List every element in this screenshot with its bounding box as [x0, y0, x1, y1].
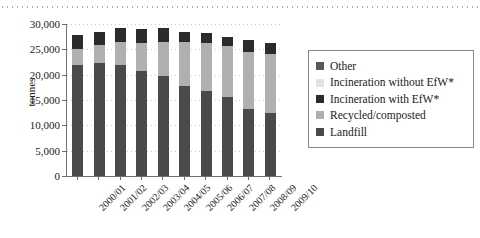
legend-label: Recycled/composted	[330, 108, 426, 122]
stacked-bar[interactable]	[136, 29, 147, 176]
bar-segment[interactable]	[115, 42, 126, 64]
legend-label: Incineration without EfW*	[330, 75, 454, 89]
bar-segment[interactable]	[265, 54, 276, 112]
legend-swatch-icon	[316, 111, 324, 119]
stacked-bar[interactable]	[158, 28, 169, 176]
bar-slot	[260, 24, 281, 176]
legend-swatch-icon	[316, 95, 324, 103]
bar-segment[interactable]	[158, 28, 169, 42]
bar-slot	[131, 24, 152, 176]
bar-segment[interactable]	[179, 42, 190, 86]
bar-slot	[217, 24, 238, 176]
stacked-bar[interactable]	[243, 40, 254, 176]
legend-label: Landfill	[330, 125, 367, 139]
bar-segment[interactable]	[179, 32, 190, 42]
legend-label: Other	[330, 59, 356, 73]
bar-segment[interactable]	[136, 29, 147, 43]
bar-segment[interactable]	[158, 76, 169, 176]
bar-segment[interactable]	[115, 65, 126, 176]
chart-figure: tonnes 05,00010,00015,00020,00025,00030,…	[0, 0, 480, 238]
bar-slot	[195, 24, 216, 176]
bar-segment[interactable]	[201, 91, 212, 176]
bar-segment[interactable]	[243, 109, 254, 176]
bar-segment[interactable]	[265, 113, 276, 176]
y-axis-tick-labels: 05,00010,00015,00020,00025,00030,000	[0, 24, 60, 177]
y-tick-mark	[62, 49, 67, 50]
legend-item[interactable]: Other	[316, 59, 465, 73]
legend-swatch-icon	[316, 79, 324, 87]
bar-slot	[153, 24, 174, 176]
plot-area	[67, 24, 281, 176]
bar-segment[interactable]	[222, 97, 233, 176]
bar-segment[interactable]	[179, 86, 190, 176]
chart-legend: OtherIncineration without EfW*Incinerati…	[308, 50, 474, 148]
bar-series-group	[67, 24, 281, 176]
bar-segment[interactable]	[94, 45, 105, 63]
y-tick-mark	[62, 75, 67, 76]
bar-segment[interactable]	[158, 42, 169, 76]
bar-slot	[174, 24, 195, 176]
bar-segment[interactable]	[243, 52, 254, 108]
bar-segment[interactable]	[243, 40, 254, 52]
y-tick-label: 30,000	[30, 19, 60, 30]
x-axis-tick-labels: 2000/012001/022002/032003/042004/052005/…	[66, 178, 282, 236]
stacked-bar[interactable]	[179, 32, 190, 176]
stacked-bar[interactable]	[94, 32, 105, 176]
legend-label: Incineration with EfW*	[330, 92, 439, 106]
stacked-bar[interactable]	[265, 43, 276, 176]
y-tick-mark	[62, 151, 67, 152]
bar-segment[interactable]	[94, 63, 105, 176]
bar-segment[interactable]	[72, 65, 83, 176]
bar-segment[interactable]	[265, 43, 276, 55]
y-tick-label: 20,000	[30, 69, 60, 80]
y-tick-mark	[62, 24, 67, 25]
legend-item[interactable]: Recycled/composted	[316, 108, 465, 122]
bar-segment[interactable]	[201, 43, 212, 92]
y-tick-mark	[62, 100, 67, 101]
bar-segment[interactable]	[72, 35, 83, 49]
bar-slot	[67, 24, 88, 176]
bar-segment[interactable]	[222, 46, 233, 98]
stacked-bar[interactable]	[201, 33, 212, 176]
bar-segment[interactable]	[94, 32, 105, 46]
bar-segment[interactable]	[136, 43, 147, 71]
legend-swatch-icon	[316, 62, 324, 70]
stacked-bar[interactable]	[222, 37, 233, 176]
bar-segment[interactable]	[222, 37, 233, 46]
y-tick-label: 5,000	[35, 145, 60, 156]
bar-segment[interactable]	[201, 33, 212, 43]
y-tick-label: 15,000	[30, 95, 60, 106]
stacked-bar[interactable]	[72, 35, 83, 176]
y-tick-mark	[62, 176, 67, 177]
y-tick-label: 0	[55, 171, 61, 182]
y-tick-label: 10,000	[30, 120, 60, 131]
y-tick-mark	[62, 125, 67, 126]
bar-segment[interactable]	[115, 28, 126, 42]
y-tick-label: 25,000	[30, 44, 60, 55]
legend-item[interactable]: Incineration without EfW*	[316, 75, 465, 89]
stacked-bar[interactable]	[115, 28, 126, 176]
legend-swatch-icon	[316, 128, 324, 136]
legend-item[interactable]: Landfill	[316, 125, 465, 139]
bar-segment[interactable]	[72, 49, 83, 65]
bar-slot	[110, 24, 131, 176]
top-dotted-rule	[0, 6, 480, 8]
bar-slot	[238, 24, 259, 176]
bar-segment[interactable]	[136, 71, 147, 176]
bar-slot	[88, 24, 109, 176]
legend-item[interactable]: Incineration with EfW*	[316, 92, 465, 106]
